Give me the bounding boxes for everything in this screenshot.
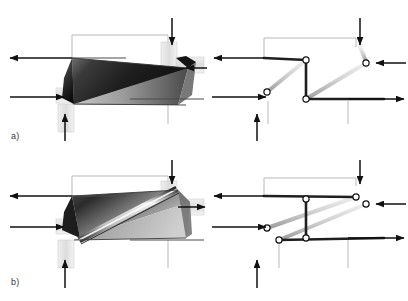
- panel-a-solid-view: [10, 18, 207, 141]
- joint-left-b: [264, 225, 270, 231]
- panel-a: [10, 18, 406, 141]
- panel-b-solid-view: [10, 160, 205, 288]
- joint-left-a: [264, 89, 270, 95]
- arrows-a-skeleton: [212, 18, 406, 141]
- arrows-b-skeleton: [212, 160, 406, 288]
- joint-right-b: [363, 201, 369, 207]
- link-upper-horizontal-b: [264, 196, 356, 197]
- pad-top-a: [161, 42, 177, 69]
- light-links-a: [267, 47, 366, 110]
- panel-label-a: a): [11, 131, 20, 141]
- panel-b: [10, 160, 406, 288]
- strut-top-vertical-a: [360, 47, 366, 61]
- joint-right-a: [363, 60, 369, 66]
- pad-bottom-a: [58, 104, 74, 132]
- joint-upper-right-b: [353, 194, 359, 200]
- joint-upper-a: [303, 57, 309, 63]
- strut-lower-to-upper-right-a: [306, 63, 366, 99]
- figure-canvas: a) b): [0, 0, 408, 301]
- joints-b: [264, 194, 369, 243]
- joint-upper-mid-b: [303, 196, 309, 202]
- panel-b-skeleton-view: [212, 160, 406, 288]
- joint-lower-mid-b: [303, 235, 309, 241]
- panel-a-skeleton-view: [212, 18, 406, 141]
- joint-lower-left-b: [276, 237, 282, 243]
- joint-lower-a: [303, 96, 309, 102]
- mechanism-diagram: [0, 0, 408, 301]
- panel-label-b: b): [11, 277, 20, 287]
- strut-lower-left-to-upper-a: [267, 60, 306, 92]
- pad-bottom-b: [58, 240, 74, 268]
- link-upper-horizontal-a: [264, 58, 306, 60]
